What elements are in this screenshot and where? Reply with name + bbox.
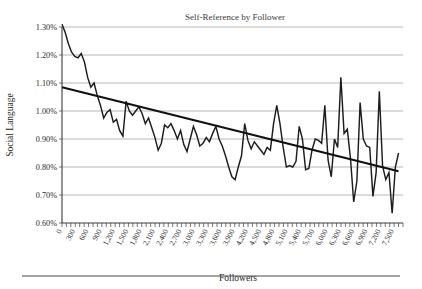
chart-title: Self-Reference by Follower bbox=[185, 12, 285, 22]
x-tick-label: 600 bbox=[77, 228, 90, 242]
self-reference-chart: 0.60%0.70%0.80%0.90%1.00%1.10%1.20%1.30%… bbox=[0, 0, 422, 289]
y-tick-label: 1.20% bbox=[36, 51, 57, 60]
x-axis-tick-labels: 03006009001,2001,5001,8002,1002,4002,700… bbox=[54, 228, 396, 247]
y-tick-label: 1.30% bbox=[36, 23, 57, 32]
x-tick-label: 7,500 bbox=[380, 228, 396, 247]
y-tick-label: 0.60% bbox=[36, 219, 57, 228]
x-axis-title: Followers bbox=[219, 273, 257, 283]
y-tick-label: 0.80% bbox=[36, 163, 57, 172]
x-tick-label: 300 bbox=[64, 228, 77, 242]
y-axis-tick-labels: 0.60%0.70%0.80%0.90%1.00%1.10%1.20%1.30% bbox=[36, 23, 57, 228]
y-axis-title: Social Language bbox=[5, 93, 15, 157]
y-tick-label: 1.00% bbox=[36, 107, 57, 116]
y-tick-label: 0.90% bbox=[36, 135, 57, 144]
y-tick-label: 0.70% bbox=[36, 191, 57, 200]
plot-area-background bbox=[62, 27, 403, 223]
x-tick-label: 0 bbox=[54, 228, 64, 236]
chart-figure: 0.60%0.70%0.80%0.90%1.00%1.10%1.20%1.30%… bbox=[0, 0, 422, 289]
y-tick-label: 1.10% bbox=[36, 79, 57, 88]
x-axis-minor-ticks bbox=[62, 223, 403, 227]
